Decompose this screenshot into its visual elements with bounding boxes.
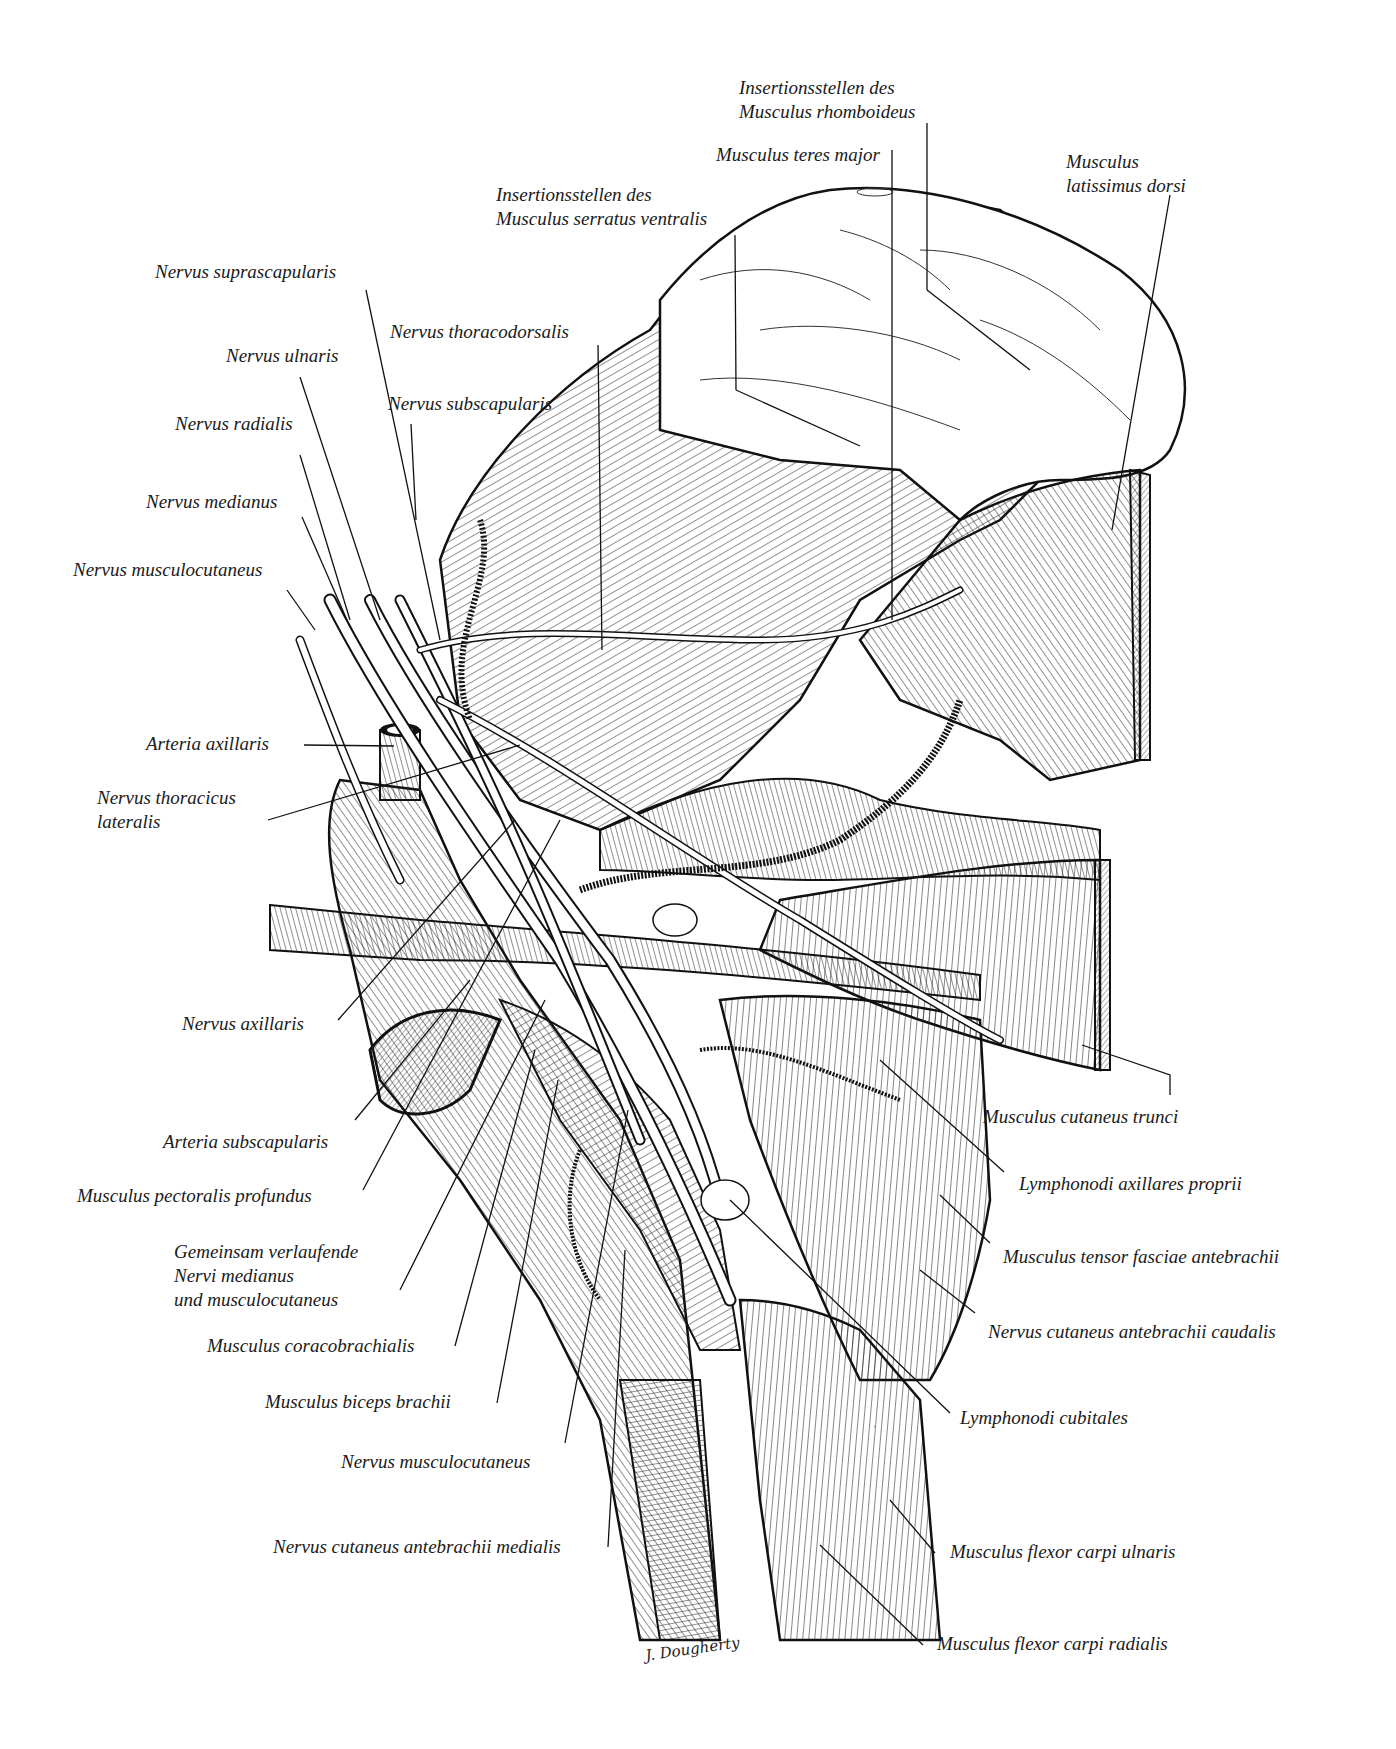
label-lymphonodi-cubitales: Lymphonodi cubitales [960, 1406, 1128, 1430]
label-line: Gemeinsam verlaufende [174, 1240, 358, 1264]
label-teres-major: Musculus teres major [716, 143, 880, 167]
label-line: Nervi medianus [174, 1264, 358, 1288]
label-line: Insertionsstellen des [496, 183, 707, 207]
label-musculus-tensor-fasciae-antebrachii: Musculus tensor fasciae antebrachii [1003, 1245, 1279, 1269]
label-nervus-radialis: Nervus radialis [175, 412, 293, 436]
label-arteria-subscapularis: Arteria subscapularis [163, 1130, 328, 1154]
label-insertion-rhomboideus: Insertionsstellen des Musculus rhomboide… [739, 76, 915, 124]
label-nervus-ulnaris: Nervus ulnaris [226, 344, 338, 368]
label-line: Musculus serratus ventralis [496, 207, 707, 231]
anatomical-figure: Insertionsstellen des Musculus rhomboide… [0, 0, 1396, 1749]
label-nervus-musculocutaneus-bottom: Nervus musculocutaneus [341, 1450, 530, 1474]
label-nervus-musculocutaneus-top: Nervus musculocutaneus [73, 558, 262, 582]
label-lymphonodi-axillares-proprii: Lymphonodi axillares proprii [1019, 1172, 1242, 1196]
label-musculus-cutaneus-trunci: Musculus cutaneus trunci [983, 1105, 1178, 1129]
label-line: Musculus rhomboideus [739, 100, 915, 124]
label-line: und musculocutaneus [174, 1288, 358, 1312]
label-line: lateralis [97, 810, 236, 834]
label-line: Nervus thoracicus [97, 786, 236, 810]
label-nervus-thoracodorsalis: Nervus thoracodorsalis [390, 320, 569, 344]
label-nervus-medianus: Nervus medianus [146, 490, 277, 514]
label-nervus-axillaris: Nervus axillaris [182, 1012, 304, 1036]
label-musculus-biceps-brachii: Musculus biceps brachii [265, 1390, 451, 1414]
label-insertion-serratus: Insertionsstellen des Musculus serratus … [496, 183, 707, 231]
label-nervus-cutaneus-antebrachii-medialis: Nervus cutaneus antebrachii medialis [273, 1535, 561, 1559]
label-musculus-pectoralis-profundus: Musculus pectoralis profundus [77, 1184, 312, 1208]
label-nervus-thoracicus-lateralis: Nervus thoracicus lateralis [97, 786, 236, 834]
label-line: Musculus [1066, 150, 1186, 174]
label-musculus-flexor-carpi-ulnaris: Musculus flexor carpi ulnaris [950, 1540, 1175, 1564]
label-arteria-axillaris: Arteria axillaris [146, 732, 269, 756]
label-nervus-cutaneus-antebrachii-caudalis: Nervus cutaneus antebrachii caudalis [988, 1320, 1276, 1344]
label-musculus-coracobrachialis: Musculus coracobrachialis [207, 1334, 414, 1358]
label-line: latissimus dorsi [1066, 174, 1186, 198]
label-line: Insertionsstellen des [739, 76, 915, 100]
label-latissimus-dorsi: Musculus latissimus dorsi [1066, 150, 1186, 198]
label-gemeinsam-verlaufende: Gemeinsam verlaufende Nervi medianus und… [174, 1240, 358, 1312]
label-nervus-subscapularis: Nervus subscapularis [388, 392, 552, 416]
label-musculus-flexor-carpi-radialis: Musculus flexor carpi radialis [937, 1632, 1168, 1656]
label-nervus-suprascapularis: Nervus suprascapularis [155, 260, 336, 284]
